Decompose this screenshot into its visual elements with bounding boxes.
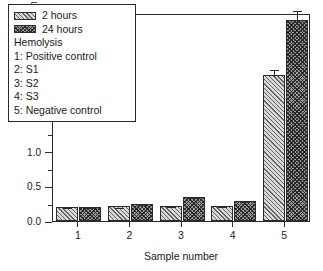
x-tick-label: 4 <box>213 229 253 241</box>
y-tick-0.0: 0.0 <box>0 216 52 228</box>
error-bar-cap <box>63 208 72 209</box>
x-tick-label: 2 <box>109 229 149 241</box>
x-tick-label: 5 <box>264 229 304 241</box>
error-bar-cap <box>218 207 227 208</box>
bar-sample-3-24-hours <box>183 197 205 221</box>
x-tick-label: 1 <box>58 229 98 241</box>
bar-sample-5-24-hours <box>286 20 308 221</box>
legend-note-5: 5: Negative control <box>14 104 129 118</box>
x-tick-mark <box>77 222 78 227</box>
error-bar-stem <box>297 11 298 22</box>
error-bar-cap <box>241 202 250 203</box>
error-bar-cap <box>190 198 199 199</box>
y-tick-0.5: 0.5 <box>0 181 52 193</box>
y-tick-mark <box>45 222 52 223</box>
error-bar-cap <box>167 207 176 208</box>
x-tick-mark <box>181 222 182 227</box>
y-tick-1.0: 1.0 <box>0 147 52 159</box>
legend: 2 hours 24 hours Hemolysis 1: Positive c… <box>8 4 136 122</box>
legend-note-1: 1: Positive control <box>14 50 129 64</box>
legend-note-2: 2: S1 <box>14 63 129 77</box>
legend-note-0: Hemolysis <box>14 36 129 50</box>
x-axis-title: Sample number <box>52 250 310 262</box>
legend-label-2-hours: 2 hours <box>42 9 77 23</box>
error-bar-cap <box>293 11 302 12</box>
legend-note-3: 3: S2 <box>14 77 129 91</box>
bar-sample-4-2-hours <box>211 206 233 221</box>
x-tick-label: 3 <box>161 229 201 241</box>
y-minor-tick <box>0 135 52 136</box>
y-minor-tick <box>0 170 52 171</box>
error-bar-stem <box>274 70 275 78</box>
x-tick-mark <box>129 222 130 227</box>
error-bar-cap <box>86 208 95 209</box>
hemolysis-bar-chart: Absorbance at 540 nm Sample number 0.00.… <box>0 0 323 271</box>
bar-sample-3-2-hours <box>160 206 182 221</box>
legend-note-4: 4: S3 <box>14 90 129 104</box>
y-tick-label: 0.0 <box>27 216 41 228</box>
legend-label-24-hours: 24 hours <box>42 23 83 37</box>
x-tick-mark <box>284 222 285 227</box>
bar-sample-2-24-hours <box>131 204 153 221</box>
bar-sample-4-24-hours <box>234 201 256 221</box>
bar-sample-5-2-hours <box>263 75 285 221</box>
legend-entry-0: 2 hours <box>14 9 129 23</box>
y-tick-mark <box>45 152 52 153</box>
legend-swatch-2-hours <box>14 12 36 20</box>
y-tick-label: 1.0 <box>27 147 41 159</box>
y-tick-label: 0.5 <box>27 181 41 193</box>
y-tick-mark <box>45 187 52 188</box>
legend-entry-1: 24 hours <box>14 23 129 37</box>
error-bar-cap <box>115 208 124 209</box>
bar-sample-2-2-hours <box>108 206 130 221</box>
error-bar-cap <box>270 70 279 71</box>
x-tick-mark <box>232 222 233 227</box>
error-bar-cap <box>138 205 147 206</box>
y-minor-tick <box>0 205 52 206</box>
legend-swatch-24-hours <box>14 25 36 33</box>
